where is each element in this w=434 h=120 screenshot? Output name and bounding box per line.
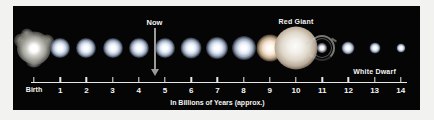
axis-tick-label-2: 2 xyxy=(84,86,88,95)
axis-tick-label-1: 1 xyxy=(58,86,62,95)
axis-tick-2 xyxy=(86,77,87,82)
axis-tick-14 xyxy=(400,77,401,82)
axis-tick-label-3: 3 xyxy=(110,86,114,95)
axis-tick-label-7: 7 xyxy=(215,86,219,95)
axis-tick-3 xyxy=(112,77,113,82)
axis-tick-birth xyxy=(33,77,34,82)
axis-tick-9 xyxy=(269,77,270,82)
axis-tick-label-4: 4 xyxy=(137,86,141,95)
axis-tick-12 xyxy=(348,77,349,82)
stellar-evolution-figure: Now Red Giant White Dwarf Birth123456789… xyxy=(0,0,434,120)
axis-tick-5 xyxy=(164,77,165,82)
axis-tick-11 xyxy=(321,77,322,82)
axis-tick-6 xyxy=(190,77,191,82)
axis-tick-label-birth: Birth xyxy=(26,86,42,93)
axis-tick-label-14: 14 xyxy=(396,86,405,95)
axis-tick-8 xyxy=(243,77,244,82)
axis-tick-13 xyxy=(374,77,375,82)
time-axis: Birth1234567891011121314 xyxy=(13,6,420,110)
axis-tick-label-12: 12 xyxy=(344,86,353,95)
axis-caption: In Billions of Years (approx.) xyxy=(170,99,264,106)
axis-tick-label-6: 6 xyxy=(189,86,193,95)
axis-tick-label-5: 5 xyxy=(163,86,167,95)
axis-line xyxy=(31,82,407,83)
axis-tick-label-11: 11 xyxy=(318,86,326,95)
diagram-panel: Now Red Giant White Dwarf Birth123456789… xyxy=(13,6,420,110)
axis-tick-7 xyxy=(217,77,218,82)
axis-tick-10 xyxy=(295,77,296,82)
axis-tick-4 xyxy=(138,77,139,82)
axis-tick-label-8: 8 xyxy=(241,86,245,95)
axis-tick-label-13: 13 xyxy=(370,86,379,95)
axis-tick-label-10: 10 xyxy=(292,86,301,95)
axis-tick-1 xyxy=(59,77,60,82)
axis-tick-label-9: 9 xyxy=(268,86,272,95)
